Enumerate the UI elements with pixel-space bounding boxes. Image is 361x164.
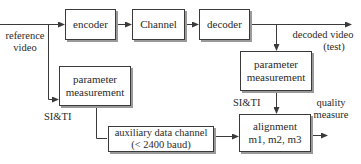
quality-measure-label: quality measure bbox=[310, 97, 352, 121]
quality-measure-line1: quality bbox=[310, 97, 352, 109]
decoded-video-line1: decoded video bbox=[287, 29, 359, 41]
si-ti-right-label: SI&TI bbox=[233, 97, 260, 109]
channel-label: Channel bbox=[140, 18, 177, 31]
encoder-label: encoder bbox=[73, 18, 108, 31]
alignment-line2: m1, m2, m3 bbox=[248, 133, 301, 146]
alignment-line1: alignment bbox=[253, 120, 297, 133]
decoded-video-line2: (test) bbox=[287, 41, 359, 53]
encoder-block: encoder bbox=[65, 9, 116, 40]
aux-line2: (< 2400 baud) bbox=[131, 139, 191, 151]
decoder-label: decoder bbox=[207, 18, 242, 31]
param-measurement-left-block: parameter measurement bbox=[59, 66, 131, 106]
param-left-line2: measurement bbox=[66, 86, 125, 99]
param-right-line2: measurement bbox=[247, 71, 306, 84]
arrow-branch-to-param-left bbox=[49, 25, 59, 100]
decoder-block: decoder bbox=[199, 9, 250, 40]
decoded-video-label: decoded video (test) bbox=[287, 29, 359, 53]
aux-line1: auxiliary data channel bbox=[115, 127, 208, 139]
alignment-block: alignment m1, m2, m3 bbox=[239, 114, 311, 152]
channel-block: Channel bbox=[132, 9, 185, 40]
diagram-canvas: encoder Channel decoder parameter measur… bbox=[0, 0, 361, 164]
reference-video-label: reference video bbox=[3, 30, 47, 54]
line-param-left-to-aux bbox=[97, 106, 108, 139]
param-right-line1: parameter bbox=[254, 58, 298, 71]
reference-video-line2: video bbox=[3, 42, 47, 54]
si-ti-left-label: SI&TI bbox=[44, 111, 71, 123]
param-measurement-right-block: parameter measurement bbox=[240, 51, 312, 91]
aux-data-channel-block: auxiliary data channel (< 2400 baud) bbox=[108, 126, 214, 152]
reference-video-line1: reference bbox=[3, 30, 47, 42]
quality-measure-line2: measure bbox=[310, 109, 352, 121]
param-left-line1: parameter bbox=[73, 73, 117, 86]
